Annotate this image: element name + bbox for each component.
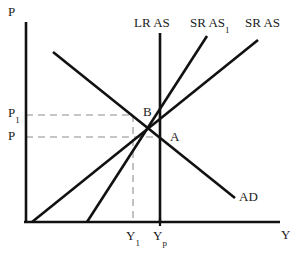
- x-axis-label: Y: [281, 228, 290, 241]
- y-tick-label-p: P: [8, 129, 15, 142]
- equilibrium-point-a-label: A: [170, 130, 179, 143]
- y-tick-label-p1-subscript: 1: [15, 115, 20, 125]
- lras-curve-label: LR AS: [134, 16, 170, 29]
- x-tick-label-y1-subscript: 1: [135, 238, 140, 248]
- x-tick-label-y1-base: Y: [126, 228, 135, 243]
- x-tick-label-yp-subscript: p: [162, 238, 167, 248]
- ad-curve: [53, 52, 235, 198]
- diagram-canvas: [0, 0, 296, 257]
- equilibrium-point-b-label: B: [143, 105, 152, 118]
- y-tick-label-p1: P1: [8, 106, 20, 123]
- sras-curve-label: SR AS: [245, 16, 280, 29]
- sras1-curve-label-subscript: 1: [225, 25, 230, 35]
- x-tick-label-y1: Y1: [126, 229, 140, 246]
- y-axis-label: P: [8, 5, 15, 18]
- x-tick-label-yp-base: Y: [153, 228, 162, 243]
- sras1-curve-label-base: SR AS: [190, 15, 225, 30]
- sras1-curve-label: SR AS1: [190, 16, 230, 33]
- aggregate-supply-demand-diagram: P Y LR AS SR AS1 SR AS AD B A P1 P Y1 Yp: [0, 0, 296, 257]
- sras1-curve: [87, 36, 207, 222]
- ad-curve-label: AD: [239, 190, 258, 203]
- x-tick-label-yp: Yp: [153, 229, 167, 246]
